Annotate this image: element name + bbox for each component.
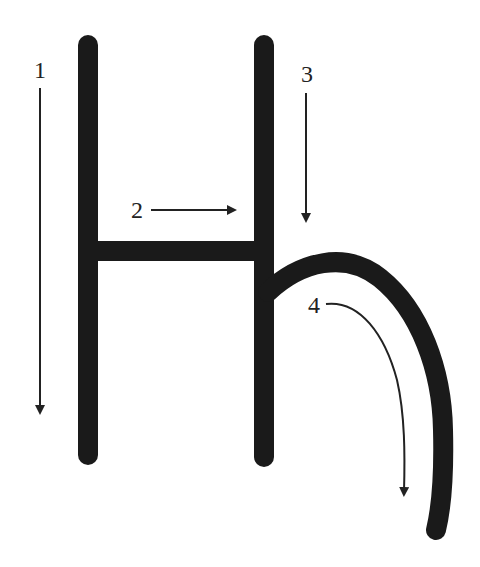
step-label-3: 3 — [301, 61, 313, 87]
step-label-2: 2 — [131, 197, 143, 223]
step-label-4: 4 — [308, 292, 320, 318]
stroke-4-hook — [268, 262, 443, 530]
stroke-order-diagram: 1 2 3 4 — [0, 0, 480, 567]
step-label-1: 1 — [34, 57, 46, 83]
letter-glyph — [88, 45, 443, 530]
arrow-4 — [326, 304, 404, 492]
